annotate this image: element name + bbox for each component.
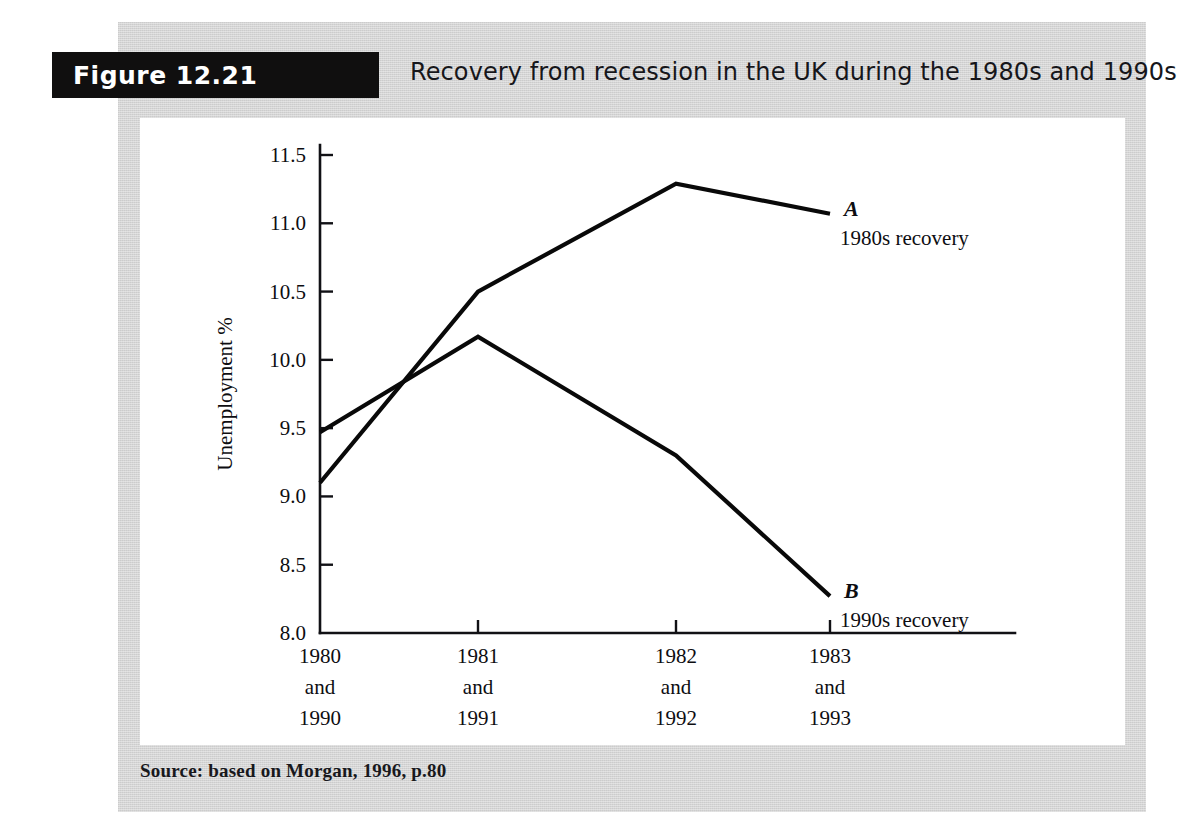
x-tick-label: 1992: [655, 706, 697, 730]
series-line-a: [320, 184, 830, 483]
y-tick-label: 11.5: [270, 143, 306, 167]
figure-number-badge: Figure 12.21: [52, 52, 379, 98]
line-chart: 8.08.59.09.510.010.511.011.5 1980and1990…: [140, 118, 1125, 745]
x-tick-label: 1980: [299, 644, 341, 668]
x-tick-label: 1993: [809, 706, 851, 730]
x-tick-label: 1982: [655, 644, 697, 668]
data-series-group: [320, 184, 830, 596]
y-tick-label: 9.5: [280, 416, 306, 440]
x-tick-label: and: [815, 675, 846, 699]
x-tick-label: 1983: [809, 644, 851, 668]
y-tick-label: 8.0: [280, 621, 306, 645]
y-tick-label: 9.0: [280, 484, 306, 508]
y-tick-label: 10.5: [269, 280, 306, 304]
x-tick-label: 1991: [457, 706, 499, 730]
x-tick-label: and: [661, 675, 692, 699]
source-attribution: Source: based on Morgan, 1996, p.80: [140, 760, 446, 782]
x-axis-ticks: 1980and19901981and19911982and19921983and…: [299, 620, 851, 730]
series-name-b: 1990s recovery: [840, 608, 969, 632]
figure-caption: Recovery from recession in the UK during…: [410, 58, 1177, 86]
x-tick-label: 1990: [299, 706, 341, 730]
series-name-a: 1980s recovery: [840, 226, 969, 250]
y-axis-title: Unemployment %: [213, 317, 237, 470]
series-key-b: B: [843, 578, 859, 603]
x-tick-label: and: [463, 675, 494, 699]
axis-lines: [320, 145, 1015, 633]
axis-titles: Unemployment %Time since trough (years): [213, 317, 795, 745]
series-key-a: A: [842, 196, 859, 221]
x-tick-label: and: [305, 675, 336, 699]
x-tick-label: 1981: [457, 644, 499, 668]
y-tick-label: 8.5: [280, 553, 306, 577]
y-axis-ticks: 8.08.59.09.510.010.511.011.5: [269, 143, 333, 645]
series-annotations: A1980s recoveryB1990s recovery: [840, 196, 969, 632]
y-tick-label: 11.0: [270, 211, 306, 235]
series-line-b: [320, 337, 830, 596]
plot-canvas: 8.08.59.09.510.010.511.011.5 1980and1990…: [140, 118, 1125, 745]
y-tick-label: 10.0: [269, 348, 306, 372]
